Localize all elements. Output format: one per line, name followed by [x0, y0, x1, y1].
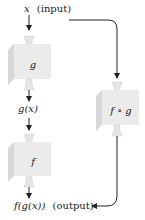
arrow-x-to-fog	[69, 20, 117, 78]
input-text: (input)	[37, 3, 71, 14]
output-label: f(g(x)) (output)	[14, 201, 94, 211]
intermediate-label: g(x)	[18, 104, 38, 114]
fog-box-label: f ∘ g	[104, 106, 138, 116]
g-box-label: g	[22, 60, 44, 70]
output-text: (output)	[53, 200, 94, 211]
output-expression: f(g(x))	[14, 200, 45, 211]
f-box-label: f	[22, 157, 44, 167]
input-variable: x	[24, 3, 30, 14]
arrow-fog-to-output	[92, 136, 117, 206]
input-label: x (input)	[24, 4, 71, 14]
